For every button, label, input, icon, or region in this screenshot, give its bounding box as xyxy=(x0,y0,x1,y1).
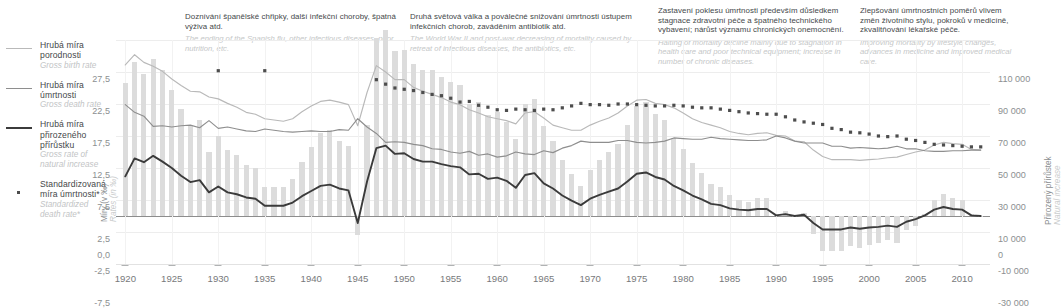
annotation-text-cz: Zlepšování úmrtnostních poměrů vlivem zm… xyxy=(860,6,1020,35)
data-point-standardized-death-rate xyxy=(598,103,601,106)
data-point-standardized-death-rate xyxy=(700,106,703,109)
x-axis-tick-mark xyxy=(959,265,966,266)
data-point-standardized-death-rate xyxy=(458,100,461,103)
data-point-standardized-death-rate xyxy=(709,106,712,109)
x-axis-tick-mark xyxy=(540,265,547,266)
annotation-text-cz: Zastavení poklesu úmrtnosti především dů… xyxy=(658,6,853,35)
data-point-standardized-death-rate xyxy=(431,93,434,96)
series-layer xyxy=(116,40,990,264)
x-axis-tick-mark xyxy=(680,265,687,266)
data-point-standardized-death-rate xyxy=(979,145,982,148)
x-axis-tick-mark xyxy=(819,265,826,266)
data-point-standardized-death-rate xyxy=(747,111,750,114)
data-point-standardized-death-rate xyxy=(719,108,722,111)
data-point-standardized-death-rate xyxy=(654,104,657,107)
data-point-standardized-death-rate xyxy=(793,118,796,121)
data-point-standardized-death-rate xyxy=(858,131,861,134)
x-axis-tick-label: 1995 xyxy=(812,273,833,284)
x-axis-tick-mark xyxy=(354,265,361,266)
data-point-standardized-death-rate xyxy=(496,108,499,111)
x-axis-tick-label: 1930 xyxy=(208,273,229,284)
x-axis-tick-mark xyxy=(587,265,594,266)
y-axis-right-tick-label: 10 000 xyxy=(998,234,1026,244)
y-axis-left-title-cz: Míry (v ‰) xyxy=(100,176,109,222)
x-axis-tick-mark xyxy=(122,265,129,266)
data-point-standardized-death-rate xyxy=(561,106,564,109)
x-axis-tick-label: 1920 xyxy=(115,273,136,284)
x-axis-tick-mark xyxy=(447,265,454,266)
data-point-standardized-death-rate xyxy=(542,108,545,111)
y-axis-right-title: Přirozený přírůstek Natural increase xyxy=(1044,156,1062,225)
data-point-standardized-death-rate xyxy=(970,145,973,148)
data-point-standardized-death-rate xyxy=(951,144,954,147)
data-point-standardized-death-rate xyxy=(765,113,768,116)
x-axis-tick-label: 1955 xyxy=(440,273,461,284)
data-point-standardized-death-rate xyxy=(933,143,936,146)
x-axis-tick-label: 1965 xyxy=(533,273,554,284)
data-point-standardized-death-rate xyxy=(895,134,898,137)
x-axis-tick-label: 1935 xyxy=(254,273,275,284)
x-axis-tick-mark xyxy=(912,265,919,266)
x-axis-tick-mark xyxy=(401,265,408,266)
x-axis-tick-label: 1990 xyxy=(765,273,786,284)
data-point-standardized-death-rate xyxy=(375,78,378,81)
data-point-standardized-death-rate xyxy=(802,120,805,123)
data-point-standardized-death-rate xyxy=(942,143,945,146)
data-point-standardized-death-rate xyxy=(728,109,731,112)
data-point-standardized-death-rate xyxy=(923,141,926,144)
x-axis-tick-label: 1945 xyxy=(347,273,368,284)
data-point-standardized-death-rate xyxy=(905,138,908,141)
x-axis-tick-label: 1960 xyxy=(487,273,508,284)
x-axis-tick-mark xyxy=(494,265,501,266)
x-axis-tick-label: 1940 xyxy=(301,273,322,284)
data-point-standardized-death-rate xyxy=(384,83,387,86)
data-point-standardized-death-rate xyxy=(821,123,824,126)
data-point-standardized-death-rate xyxy=(263,69,266,72)
x-axis-tick-label: 1925 xyxy=(161,273,182,284)
y-axis-right-tick-label: 110 000 xyxy=(998,74,1030,84)
x-axis-tick-label: 2005 xyxy=(905,273,926,284)
chart-plot-area xyxy=(116,40,990,264)
data-point-standardized-death-rate xyxy=(961,145,964,148)
data-point-standardized-death-rate xyxy=(524,108,527,111)
data-point-standardized-death-rate xyxy=(607,104,610,107)
data-point-standardized-death-rate xyxy=(644,104,647,107)
x-axis-tick-label: 1950 xyxy=(394,273,415,284)
data-point-standardized-death-rate xyxy=(514,108,517,111)
y-axis-right-tick-label: -30 000 xyxy=(998,298,1029,308)
x-axis-tick-mark xyxy=(633,265,640,266)
data-point-standardized-death-rate xyxy=(812,122,815,125)
data-point-standardized-death-rate xyxy=(635,103,638,106)
data-point-standardized-death-rate xyxy=(868,132,871,135)
y-axis-right-tick-label: 30 000 xyxy=(998,202,1026,212)
data-point-standardized-death-rate xyxy=(403,88,406,91)
data-point-standardized-death-rate xyxy=(691,106,694,109)
data-point-standardized-death-rate xyxy=(830,127,833,130)
data-point-standardized-death-rate xyxy=(477,104,480,107)
y-axis-right-title-cz: Přirozený přírůstek xyxy=(1044,156,1053,225)
data-point-standardized-death-rate xyxy=(784,115,787,118)
data-point-standardized-death-rate xyxy=(440,94,443,97)
data-point-standardized-death-rate xyxy=(626,102,629,105)
data-point-standardized-death-rate xyxy=(682,104,685,107)
x-axis-tick-mark xyxy=(308,265,315,266)
data-point-standardized-death-rate xyxy=(217,69,220,72)
data-point-standardized-death-rate xyxy=(775,113,778,116)
data-point-standardized-death-rate xyxy=(579,102,582,105)
x-axis-tick-mark xyxy=(215,265,222,266)
data-point-standardized-death-rate xyxy=(589,103,592,106)
data-point-standardized-death-rate xyxy=(616,102,619,105)
x-axis-tick-label: 1985 xyxy=(719,273,740,284)
data-point-standardized-death-rate xyxy=(672,104,675,107)
x-axis-tick-label: 2010 xyxy=(951,273,972,284)
data-point-standardized-death-rate xyxy=(737,110,740,113)
data-point-standardized-death-rate xyxy=(533,109,536,112)
y-axis-left-tick-label: -7,5 xyxy=(94,298,110,308)
y-axis-right-tick-label: 0 xyxy=(998,250,1003,260)
x-axis-tick-label: 2000 xyxy=(858,273,879,284)
annotation-text-cz: Druhá světová válka a poválečné snižován… xyxy=(410,12,650,31)
x-axis-tick-label: 1980 xyxy=(672,273,693,284)
data-point-standardized-death-rate xyxy=(449,97,452,100)
x-axis-tick-mark xyxy=(168,265,175,266)
